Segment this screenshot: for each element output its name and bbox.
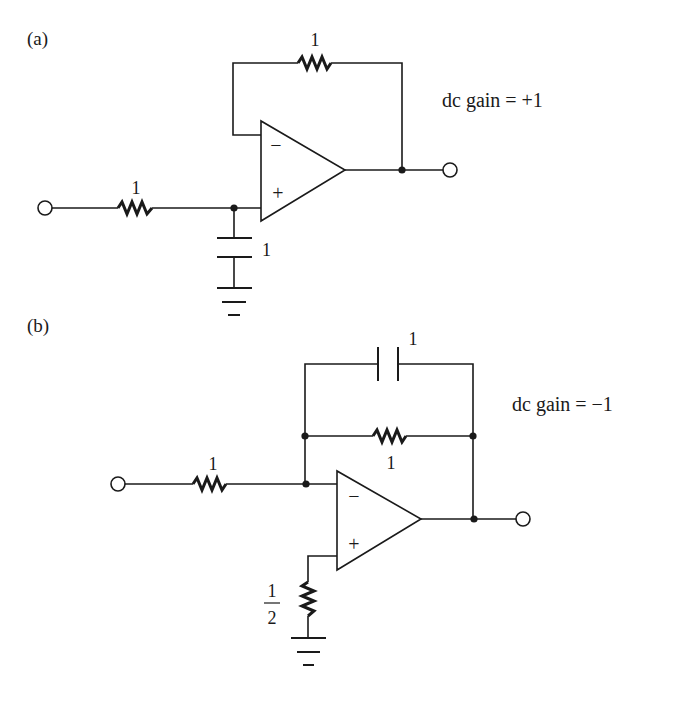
op-amp-b: − + xyxy=(337,471,421,570)
ground-icon xyxy=(291,638,326,665)
panel-a: (a) 1 − + 1 xyxy=(27,28,543,315)
feedback-resistor-b: 1 xyxy=(305,430,473,473)
circuit-figure: (a) 1 − + 1 xyxy=(0,0,692,703)
feedback-resistor-b-value: 1 xyxy=(387,453,396,473)
input-resistor-a: 1 xyxy=(52,178,261,214)
op-amp-a: − + xyxy=(261,121,345,221)
output-terminal-b xyxy=(516,512,530,526)
resistor-icon xyxy=(373,430,406,442)
feedback-capacitor-b: 1 xyxy=(305,329,473,436)
resistor-icon xyxy=(302,582,314,616)
resistor-icon xyxy=(298,57,331,69)
op-amp-b-inverting: − xyxy=(348,485,359,507)
feedback-capacitor-b-value: 1 xyxy=(409,329,418,349)
output-node-b xyxy=(470,515,477,522)
resistor-icon xyxy=(118,202,152,214)
ground-icon xyxy=(217,288,252,315)
bias-resistor-b-denominator: 2 xyxy=(268,608,277,628)
op-amp-b-noninverting: + xyxy=(348,533,359,555)
panel-b-label: (b) xyxy=(27,315,49,337)
output-terminal-a xyxy=(443,163,457,177)
output-node-a xyxy=(398,166,405,173)
resistor-icon xyxy=(193,478,226,490)
input-terminal-a xyxy=(38,201,52,215)
op-amp-a-noninverting: + xyxy=(272,182,283,204)
inv-node-b xyxy=(302,480,309,487)
input-resistor-a-value: 1 xyxy=(132,178,141,198)
bias-resistor-b-numerator: 1 xyxy=(268,581,277,601)
bias-resistor-b: 1 2 xyxy=(264,556,337,638)
dc-gain-a: dc gain = +1 xyxy=(442,89,543,112)
panel-a-label: (a) xyxy=(27,28,48,50)
shunt-capacitor-a-value: 1 xyxy=(262,240,271,260)
feedback-resistor-a: 1 xyxy=(233,30,402,170)
op-amp-a-inverting: − xyxy=(270,134,281,156)
input-terminal-b xyxy=(111,477,125,491)
feedback-resistor-a-value: 1 xyxy=(311,30,320,50)
dc-gain-b: dc gain = −1 xyxy=(512,393,613,416)
input-resistor-b-value: 1 xyxy=(209,454,218,474)
panel-b: (b) 1 1 1 − xyxy=(27,315,613,665)
